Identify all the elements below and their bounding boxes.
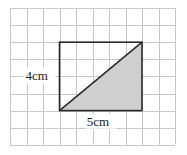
- geometry-diagram: 4cm 5cm: [0, 0, 187, 155]
- height-label: 4cm: [26, 68, 48, 83]
- width-label: 5cm: [87, 114, 109, 129]
